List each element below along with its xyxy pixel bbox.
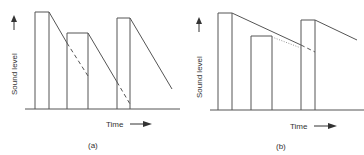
decay-2-a bbox=[88, 33, 117, 82]
svg-text:Sound level: Sound level bbox=[10, 53, 19, 95]
pulse-2-b bbox=[251, 36, 272, 110]
y-axis-label-a: Sound level bbox=[10, 15, 19, 95]
arrow-right-icon bbox=[143, 121, 152, 127]
arrow-up-icon bbox=[196, 17, 202, 24]
decay-3-b bbox=[315, 20, 357, 40]
decay-1-dashed-a bbox=[67, 43, 88, 76]
svg-text:Time: Time bbox=[106, 120, 124, 129]
panel-b bbox=[210, 13, 364, 110]
caption-b: (b) bbox=[276, 142, 286, 151]
panel-a bbox=[25, 12, 180, 109]
x-axis-label-a: Time bbox=[106, 120, 152, 129]
pulse-2-a bbox=[67, 33, 88, 109]
arrow-right-icon bbox=[328, 123, 337, 129]
svg-text:Time: Time bbox=[290, 122, 308, 131]
caption-a: (a) bbox=[88, 141, 98, 150]
arrow-up-icon bbox=[11, 15, 17, 22]
decay-2-dashed-a bbox=[117, 82, 130, 104]
x-axis-label-b: Time bbox=[290, 122, 337, 131]
decay-1-b bbox=[232, 13, 301, 45]
pulse-3-a bbox=[117, 18, 130, 109]
decay-1-a bbox=[49, 12, 67, 43]
pulse-3-b bbox=[301, 20, 315, 110]
decay-1-dashed-b bbox=[301, 45, 315, 52]
pulse-1-b bbox=[218, 13, 232, 110]
svg-text:Sound level: Sound level bbox=[195, 56, 204, 98]
y-axis-label-b: Sound level bbox=[195, 17, 204, 98]
pulse-1-a bbox=[35, 12, 49, 109]
decay-3-a bbox=[130, 18, 172, 89]
figure: Sound level Time (a) Sound level Time (b… bbox=[0, 0, 364, 155]
